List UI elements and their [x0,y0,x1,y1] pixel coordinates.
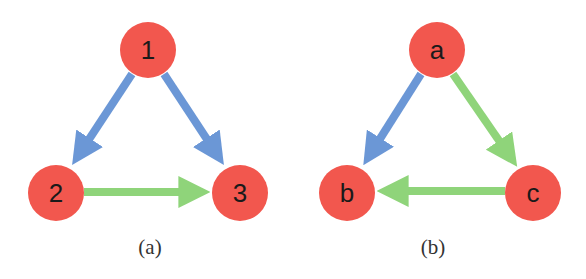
diagram-canvas: 1 2 3 (a) a b c (b) [0,0,586,279]
caption-b: (b) [421,235,446,259]
node-b-label: b [340,178,354,208]
caption-a: (a) [138,235,161,259]
node-3: 3 [212,165,268,221]
edge-a-to-b [371,74,421,153]
node-a-label: a [430,35,445,65]
node-3-label: 3 [233,178,247,208]
edge-1-to-2 [80,74,132,153]
edge-a-to-c [453,74,509,155]
node-2-label: 2 [49,178,63,208]
node-c: c [505,165,561,221]
node-2: 2 [28,165,84,221]
node-a: a [409,22,465,78]
node-c-label: c [527,178,540,208]
graph-b: a b c (b) [319,22,561,259]
graph-a: 1 2 3 (a) [28,22,268,259]
node-1-label: 1 [141,35,155,65]
node-1: 1 [120,22,176,78]
edge-1-to-3 [164,74,216,153]
node-b: b [319,165,375,221]
